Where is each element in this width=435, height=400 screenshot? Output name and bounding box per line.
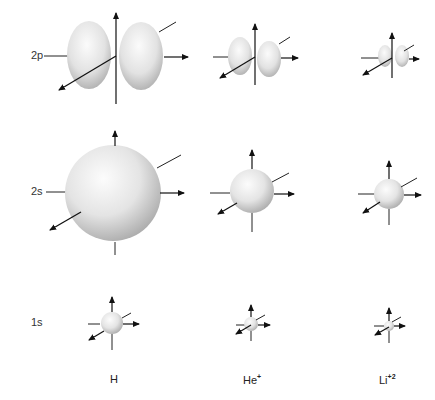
orbital-illustrations (0, 0, 435, 400)
orbital-2s-li (358, 161, 421, 225)
orbital-2p-li (361, 33, 419, 78)
orbital-2p-h (44, 13, 188, 104)
orbital-2p-he (213, 24, 298, 85)
orbital-2s-h (46, 131, 184, 255)
orbital-2s-he (210, 150, 294, 232)
orbital-1s-h (88, 297, 139, 350)
orbital-1s-li (374, 308, 405, 343)
orbital-1s-he (236, 305, 270, 341)
